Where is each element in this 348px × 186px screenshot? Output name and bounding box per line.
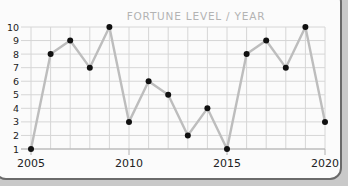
y-tick-label: 9 <box>13 35 19 46</box>
y-tick-label: 1 <box>13 144 19 155</box>
data-point <box>322 119 328 125</box>
x-tick-label: 2020 <box>311 157 339 170</box>
data-point <box>146 78 152 84</box>
x-axis-ticks: 2005201020152020 <box>17 149 339 170</box>
y-tick-label: 5 <box>13 89 19 100</box>
data-point <box>224 146 230 152</box>
data-line <box>31 27 325 149</box>
grid <box>21 27 325 149</box>
data-point <box>126 119 132 125</box>
x-tick-label: 2015 <box>213 157 241 170</box>
y-tick-label: 10 <box>7 22 19 33</box>
data-point <box>28 146 34 152</box>
y-tick-label: 4 <box>13 103 19 114</box>
data-point <box>302 24 308 30</box>
data-point <box>87 65 93 71</box>
data-point <box>263 38 269 44</box>
y-tick-label: 7 <box>13 62 19 73</box>
data-point <box>48 51 54 57</box>
y-tick-label: 8 <box>13 49 19 60</box>
data-point <box>106 24 112 30</box>
x-tick-label: 2010 <box>115 157 143 170</box>
data-point <box>165 92 171 98</box>
line-chart: FORTUNE LEVEL / YEAR 12345678910 2005201… <box>0 0 348 186</box>
data-point <box>283 65 289 71</box>
y-tick-label: 2 <box>13 130 19 141</box>
x-tick-label: 2005 <box>17 157 45 170</box>
y-tick-label: 6 <box>13 76 19 87</box>
y-tick-label: 3 <box>13 116 19 127</box>
data-point <box>244 51 250 57</box>
data-point <box>67 38 73 44</box>
chart-title: FORTUNE LEVEL / YEAR <box>127 10 266 22</box>
y-axis-ticks: 12345678910 <box>7 22 19 155</box>
data-point <box>185 132 191 138</box>
data-point <box>204 105 210 111</box>
